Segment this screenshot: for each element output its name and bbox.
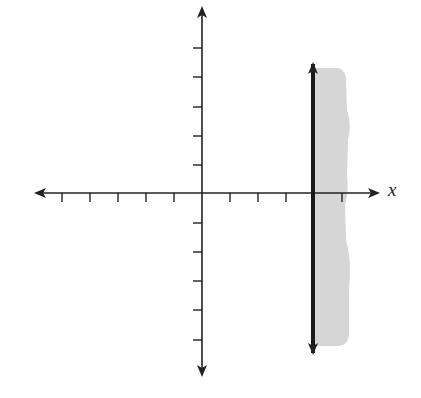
shaded-region — [315, 68, 350, 346]
y-ticks — [193, 48, 202, 340]
x-axis-label: x — [388, 179, 396, 201]
coordinate-plane — [0, 0, 421, 398]
